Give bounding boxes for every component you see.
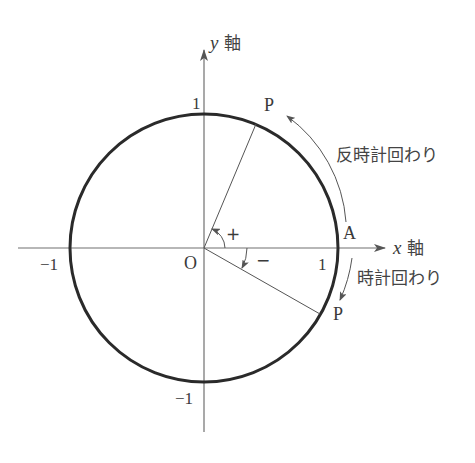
- positive-angle-arc: [212, 229, 225, 248]
- x-axis-jp: 軸: [407, 238, 424, 258]
- counterclockwise-arrow: [287, 116, 346, 222]
- tick-x-pos: 1: [318, 256, 327, 273]
- x-axis-label: x 軸: [393, 238, 424, 257]
- counterclockwise-label: 反時計回わり: [336, 147, 438, 164]
- clockwise-label: 時計回わり: [357, 270, 442, 287]
- x-axis-var: x: [393, 237, 401, 258]
- tick-x-neg: −1: [40, 256, 58, 273]
- y-axis-jp: 軸: [224, 33, 241, 53]
- tick-y-neg: −1: [175, 390, 193, 407]
- negative-angle-sign: −: [256, 252, 270, 269]
- clockwise-arrow: [340, 258, 352, 300]
- y-axis-label: y 軸: [210, 33, 241, 52]
- positive-angle-sign: +: [226, 226, 240, 243]
- point-p-upper-label: P: [264, 96, 274, 114]
- origin-label: O: [184, 254, 197, 272]
- negative-angle-arc: [242, 248, 247, 268]
- point-a-label: A: [343, 224, 356, 242]
- y-axis-var: y: [210, 32, 218, 53]
- tick-y-pos: 1: [192, 95, 201, 112]
- point-p-lower-label: P: [333, 305, 343, 323]
